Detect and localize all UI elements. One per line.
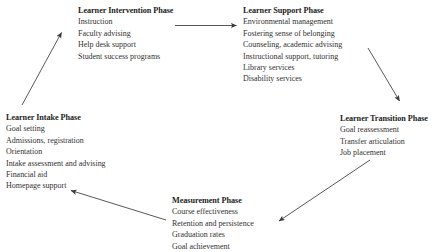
phase-title-transition: Learner Transition Phase — [340, 113, 428, 124]
phase-items-intervention: Instruction Faculty advising Help desk s… — [78, 16, 173, 62]
phase-item: Environmental management — [243, 16, 342, 27]
phase-title-intake: Learner Intake Phase — [6, 112, 106, 123]
phase-item: Goal reassessment — [340, 124, 428, 135]
phase-item: Student success programs — [78, 51, 173, 62]
phase-item: Job placement — [340, 147, 428, 158]
phase-item: Fostering sense of belonging — [243, 28, 342, 39]
phase-item: Goal setting — [6, 123, 106, 134]
arrow-transition-to-measurement — [279, 160, 370, 221]
phase-block-support: Learner Support Phase Environmental mana… — [243, 5, 342, 85]
phase-item: Intake assessment and advising — [6, 158, 106, 169]
phase-block-transition: Learner Transition Phase Goal reassessme… — [340, 113, 428, 159]
phase-title-measurement: Measurement Phase — [172, 195, 254, 206]
phase-item: Graduation rates — [172, 229, 254, 240]
phase-items-measurement: Course effectiveness Retention and persi… — [172, 206, 254, 252]
arrow-support-to-transition — [368, 48, 400, 101]
phase-item: Retention and persistence — [172, 218, 254, 229]
phase-item: Library services — [243, 62, 342, 73]
phase-item: Homepage support — [6, 180, 106, 191]
arrow-intake-to-intervention — [22, 33, 62, 106]
phase-title-intervention: Learner Intervention Phase — [78, 5, 173, 16]
phase-cycle-diagram: Learner Intervention Phase Instruction F… — [0, 0, 433, 252]
phase-item: Transfer articulation — [340, 136, 428, 147]
phase-block-intake: Learner Intake Phase Goal setting Admiss… — [6, 112, 106, 192]
phase-block-measurement: Measurement Phase Course effectiveness R… — [172, 195, 254, 252]
phase-item: Instruction — [78, 16, 173, 27]
phase-items-support: Environmental management Fostering sense… — [243, 16, 342, 84]
arrow-measurement-to-intake — [71, 191, 166, 221]
phase-item: Help desk support — [78, 39, 173, 50]
phase-items-transition: Goal reassessment Transfer articulation … — [340, 124, 428, 158]
phase-items-intake: Goal setting Admissions, registration Or… — [6, 123, 106, 191]
phase-block-intervention: Learner Intervention Phase Instruction F… — [78, 5, 173, 62]
phase-item: Course effectiveness — [172, 206, 254, 217]
phase-item: Faculty advising — [78, 28, 173, 39]
phase-item: Counseling, academic advising — [243, 39, 342, 50]
phase-title-support: Learner Support Phase — [243, 5, 342, 16]
phase-item: Goal achievement — [172, 241, 254, 252]
phase-item: Disability services — [243, 73, 342, 84]
phase-item: Admissions, registration — [6, 135, 106, 146]
phase-item: Instructional support, tutoring — [243, 51, 342, 62]
phase-item: Financial aid — [6, 169, 106, 180]
phase-item: Orientation — [6, 146, 106, 157]
